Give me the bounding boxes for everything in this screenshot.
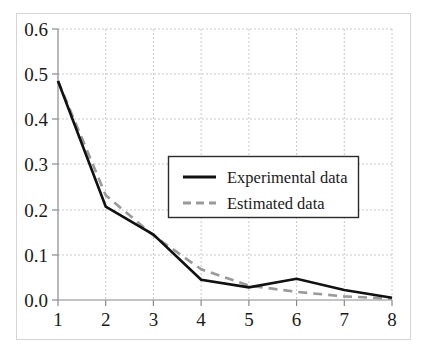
y-tick-label: 0.6 <box>24 19 48 40</box>
x-tick-label: 6 <box>292 309 302 330</box>
y-tick-label: 0.0 <box>24 290 48 311</box>
y-tick-label: 0.3 <box>24 154 48 175</box>
x-tick-label: 1 <box>53 309 63 330</box>
x-tick-label: 5 <box>244 309 254 330</box>
y-tick-label: 0.1 <box>24 245 48 266</box>
y-tick-label: 0.4 <box>24 109 48 130</box>
line-chart: 0.6 0.5 0.4 0.3 0.2 0.1 0.0 1 2 3 4 5 6 … <box>0 0 427 358</box>
x-tick-label: 2 <box>101 309 111 330</box>
x-tick-label: 7 <box>340 309 350 330</box>
chart-container: 0.6 0.5 0.4 0.3 0.2 0.1 0.0 1 2 3 4 5 6 … <box>0 0 427 358</box>
x-tick-label: 4 <box>196 309 206 330</box>
chart-legend: Experimental data Estimated data <box>169 157 359 218</box>
y-tick-label: 0.5 <box>24 64 48 85</box>
legend-label-experimental: Experimental data <box>227 168 348 187</box>
x-tick-label: 3 <box>149 309 159 330</box>
legend-label-estimated: Estimated data <box>227 194 325 213</box>
x-tick-label: 8 <box>387 309 397 330</box>
y-tick-label: 0.2 <box>24 200 48 221</box>
